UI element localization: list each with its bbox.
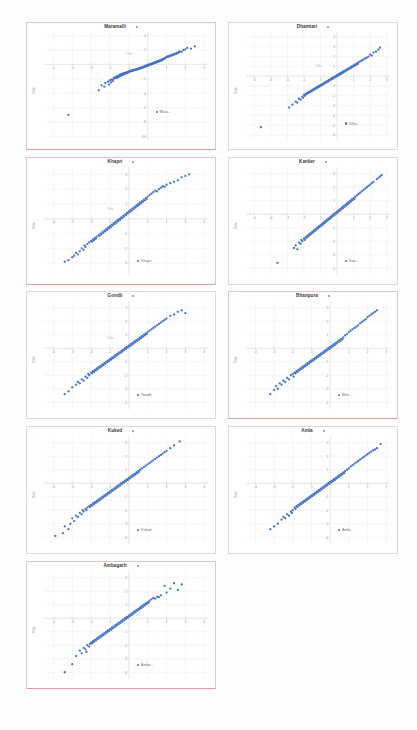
svg-text:-3: -3	[325, 522, 328, 526]
svg-text:-3: -3	[273, 485, 276, 489]
svg-text:-1: -1	[127, 66, 130, 70]
svg-text:-3: -3	[124, 387, 127, 391]
y-axis-label: Title	[234, 491, 238, 498]
svg-text:2: 2	[333, 55, 335, 59]
scatter-chart-ambagarh[interactable]: Ambagarh-4-3-2-11234321-1-2-3-4TitleAmba…	[26, 561, 216, 689]
scatter-chart-amla[interactable]: Amla-4-3-2-1123321-1-2-3-4TitleAmla	[228, 426, 398, 554]
title-marker-dot-icon	[325, 161, 327, 163]
svg-text:-2: -2	[90, 350, 93, 354]
plot-area[interactable]: -5-4-3-2-1123321-1-2-3-4	[228, 157, 398, 285]
scatter-chart-maramalli[interactable]: Maramalli-5-4-3-2-112342-2-4-6-8-10Title…	[26, 22, 216, 150]
chart-title-text: Kanker	[299, 159, 315, 164]
chart-legend[interactable]: Khapri	[137, 259, 152, 263]
chart-legend[interactable]: Amba...	[137, 663, 154, 667]
svg-text:1: 1	[326, 333, 328, 337]
chart-legend[interactable]: Kan...	[345, 259, 359, 263]
legend-label: Mara...	[160, 110, 171, 114]
svg-text:3: 3	[203, 66, 205, 70]
plot-area[interactable]: -4-3-2-11234321-1-2-3-4	[26, 426, 216, 554]
scatter-chart-bhanpura[interactable]: Bhanpura-4-3-2-1123321-1-2-3-4TitleBha..…	[228, 291, 398, 419]
y-axis-label: Title	[234, 356, 238, 363]
chart-legend[interactable]: Kuked	[137, 528, 151, 532]
chart-legend[interactable]: Mara...	[156, 110, 171, 114]
svg-text:3: 3	[386, 78, 388, 82]
svg-text:-3: -3	[286, 216, 289, 220]
svg-text:1: 1	[147, 620, 149, 624]
svg-text:-4: -4	[269, 216, 272, 220]
svg-text:-2: -2	[124, 247, 127, 251]
svg-text:3: 3	[125, 441, 127, 445]
svg-text:-2: -2	[90, 220, 93, 224]
chart-legend[interactable]: Bha...	[338, 393, 352, 397]
scatter-chart-khapri[interactable]: Khapri-4-3-2-11234321-1-2-3TitleTitleKha…	[26, 157, 216, 285]
svg-text:-4: -4	[332, 114, 335, 118]
svg-text:4: 4	[144, 34, 146, 38]
chart-legend[interactable]: Dhta...	[345, 122, 360, 126]
chart-legend[interactable]: Gondli	[137, 393, 152, 397]
legend-marker-icon	[338, 394, 340, 396]
chart-legend[interactable]: Amla	[338, 528, 350, 532]
svg-text:-4: -4	[254, 485, 257, 489]
svg-text:-3: -3	[71, 485, 74, 489]
scatter-chart-kuked[interactable]: Kuked-4-3-2-11234321-1-2-3-4TitleKuked	[26, 426, 216, 554]
svg-text:-2: -2	[291, 485, 294, 489]
scatter-chart-gondli[interactable]: Gondli-4-3-2-11234321-1-2-3-4TitleTitleG…	[26, 291, 216, 419]
svg-text:-4: -4	[71, 66, 74, 70]
y-axis-label: Title	[234, 87, 238, 94]
legend-label: Kuked	[141, 528, 151, 532]
svg-text:-1: -1	[319, 216, 322, 220]
plot-area[interactable]: -4-3-2-11234321-1-2-3-4	[26, 561, 216, 689]
svg-text:-2: -2	[90, 620, 93, 624]
svg-text:-2: -2	[143, 77, 146, 81]
svg-text:-4: -4	[325, 536, 328, 540]
svg-text:-1: -1	[310, 485, 313, 489]
svg-text:1: 1	[125, 468, 127, 472]
svg-text:2: 2	[326, 455, 328, 459]
plot-area[interactable]: -4-3-2-11234321-1-2-3	[26, 157, 216, 285]
legend-marker-icon	[345, 260, 347, 262]
scatter-points	[269, 309, 378, 395]
svg-text:3: 3	[184, 620, 186, 624]
y-axis-label: Title	[32, 222, 36, 229]
svg-text:-4: -4	[52, 485, 55, 489]
legend-label: Kan...	[349, 259, 358, 263]
svg-text:-1: -1	[310, 350, 313, 354]
svg-text:-2: -2	[302, 78, 305, 82]
legend-marker-icon	[137, 664, 139, 666]
svg-text:-3: -3	[124, 657, 127, 661]
chart-title-text: Gondli	[108, 293, 123, 298]
chart-title: Gondli	[26, 293, 216, 299]
svg-text:1: 1	[353, 78, 355, 82]
plot-area[interactable]: -5-4-3-2-11234321-1-2-3-4-5-6	[228, 22, 398, 150]
plot-area[interactable]: -4-3-2-11234321-1-2-3-4	[26, 291, 216, 419]
svg-text:-1: -1	[124, 360, 127, 364]
scatter-chart-kanker[interactable]: Kanker-5-4-3-2-1123321-1-2-3-4TitleKan..…	[228, 157, 398, 285]
plot-area[interactable]: -4-3-2-1123321-1-2-3-4	[228, 291, 398, 419]
title-marker-dot-icon	[327, 26, 329, 28]
svg-text:2: 2	[125, 590, 127, 594]
svg-text:-3: -3	[332, 253, 335, 257]
scatter-chart-dhamtari[interactable]: Dhamtari-5-4-3-2-11234321-1-2-3-4-5-6Tit…	[228, 22, 398, 150]
plot-area[interactable]: -5-4-3-2-112342-2-4-6-8-10	[26, 22, 216, 150]
svg-text:2: 2	[369, 78, 371, 82]
svg-text:-3: -3	[325, 387, 328, 391]
svg-text:-5: -5	[52, 66, 55, 70]
svg-text:4: 4	[203, 350, 205, 354]
svg-text:-2: -2	[302, 216, 305, 220]
inline-axis-title: Title	[315, 64, 322, 68]
svg-text:-2: -2	[124, 374, 127, 378]
svg-text:-1: -1	[124, 495, 127, 499]
plot-area[interactable]: -4-3-2-1123321-1-2-3-4	[228, 426, 398, 554]
svg-text:-3: -3	[90, 66, 93, 70]
svg-text:2: 2	[333, 186, 335, 190]
svg-text:3: 3	[184, 485, 186, 489]
svg-text:-3: -3	[273, 350, 276, 354]
legend-label: Dhta...	[349, 122, 360, 126]
svg-text:2: 2	[367, 485, 369, 489]
svg-text:1: 1	[333, 199, 335, 203]
legend-marker-icon	[137, 394, 139, 396]
chart-title: Kuked	[26, 428, 216, 434]
title-marker-dot-icon	[136, 26, 138, 28]
svg-text:2: 2	[144, 48, 146, 52]
svg-text:1: 1	[348, 350, 350, 354]
